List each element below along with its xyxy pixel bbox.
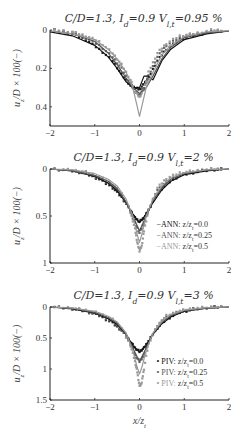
y-tick-label: 0.5 xyxy=(36,333,48,343)
x-axis-label: x/zt xyxy=(132,415,147,430)
figure: C/D=1.3, Id=0.9 Vl,t=0.95 %00.20.4−2−101… xyxy=(0,0,244,443)
y-tick-label: 0.4 xyxy=(36,102,48,112)
y-tick-label: 0 xyxy=(43,302,48,312)
x-tick-label: −2 xyxy=(45,128,55,138)
ann-line xyxy=(50,31,229,93)
panel-vlt-0.95: C/D=1.3, Id=0.9 Vl,t=0.95 %00.20.4−2−101… xyxy=(11,12,231,138)
x-tick-label: 0 xyxy=(137,128,142,138)
legend-item: • PIV: z/zt=0.5 xyxy=(157,379,204,390)
piv-series xyxy=(53,28,222,90)
y-axis-label: uz/D × 100(−) xyxy=(11,186,26,245)
ann-line xyxy=(50,307,229,362)
ann-line xyxy=(50,307,229,352)
x-tick-label: −2 xyxy=(45,265,55,275)
y-axis-label: uz/D × 100(−) xyxy=(11,324,26,383)
legend-item: −ANN: z/zt=0.25 xyxy=(157,231,212,242)
ann-line xyxy=(50,31,229,88)
ann-line xyxy=(50,169,229,223)
chart-title: C/D=1.3, Id=0.9 Vl,t=3 % xyxy=(73,289,213,306)
panel-vlt-3: C/D=1.3, Id=0.9 Vl,t=3 %00.511.5−2−1012u… xyxy=(11,289,231,430)
y-tick-label: 0 xyxy=(43,25,48,35)
legend-item: • PIV: z/zt=0.0 xyxy=(157,357,204,368)
legend-item: −ANN: z/zt=0.0 xyxy=(157,220,208,231)
legend-item: −ANN: z/zt=0.5 xyxy=(157,242,208,253)
piv-series xyxy=(53,167,222,222)
x-tick-label: 2 xyxy=(227,128,232,138)
y-tick-label: 0.2 xyxy=(36,63,47,73)
chart-title: C/D=1.3, Id=0.9 Vl,t=2 % xyxy=(73,151,213,168)
y-tick-label: 0 xyxy=(43,164,48,174)
piv-series xyxy=(53,305,222,363)
x-tick-label: −1 xyxy=(90,402,100,412)
panel-vlt-2: C/D=1.3, Id=0.9 Vl,t=2 %00.51−2−1012uz/D… xyxy=(11,151,231,275)
x-tick-label: 2 xyxy=(227,402,232,412)
x-tick-label: 1 xyxy=(182,402,187,412)
x-tick-label: 0 xyxy=(137,402,142,412)
y-axis-label: uz/D × 100(−) xyxy=(11,48,26,107)
x-tick-label: 2 xyxy=(227,265,232,275)
legend: • PIV: z/zt=0.0• PIV: z/zt=0.25• PIV: z/… xyxy=(157,357,208,390)
chart-title: C/D=1.3, Id=0.9 Vl,t=0.95 % xyxy=(65,12,223,29)
plot-area xyxy=(50,28,229,116)
y-tick-label: 0.5 xyxy=(36,211,48,221)
x-tick-label: −1 xyxy=(90,265,100,275)
x-tick-label: 0 xyxy=(137,265,142,275)
y-tick-label: 1 xyxy=(43,364,48,374)
ann-line xyxy=(50,31,229,117)
legend: −ANN: z/zt=0.0−ANN: z/zt=0.25−ANN: z/zt=… xyxy=(157,220,212,253)
piv-series xyxy=(53,305,222,353)
x-tick-label: −1 xyxy=(90,128,100,138)
x-tick-label: 1 xyxy=(182,265,187,275)
legend-item: • PIV: z/zt=0.25 xyxy=(157,368,208,379)
x-tick-label: 1 xyxy=(182,128,187,138)
x-tick-label: −2 xyxy=(45,402,55,412)
